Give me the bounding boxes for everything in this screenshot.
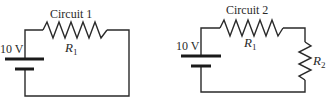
circuit-2-resistor-r2 xyxy=(299,42,311,80)
circuit-1: Circuit 1 10 V R1 xyxy=(0,7,129,96)
circuit-1-resistor-r1 xyxy=(43,22,107,38)
circuit-2-wire-top-left xyxy=(201,28,220,56)
circuit-2-wire-bottom xyxy=(201,66,305,92)
circuit-2-title: Circuit 2 xyxy=(226,3,268,17)
circuit-2-r1-label: R1 xyxy=(243,35,256,52)
circuit-2-r2-label: R2 xyxy=(312,53,325,70)
circuit-2-voltage-label: 10 V xyxy=(176,39,200,53)
circuit-2-resistor-r1 xyxy=(220,20,283,36)
circuit-1-r1-label: R1 xyxy=(64,40,77,57)
circuit-diagrams: Circuit 1 10 V R1 Circuit 2 10 V R1 R2 xyxy=(0,0,327,104)
circuit-1-wire-top-left xyxy=(25,30,43,59)
circuit-2: Circuit 2 10 V R1 R2 xyxy=(176,3,325,92)
circuit-2-wire-right-top xyxy=(283,28,305,42)
circuit-1-voltage-label: 10 V xyxy=(0,42,24,56)
circuit-1-title: Circuit 1 xyxy=(50,7,92,21)
